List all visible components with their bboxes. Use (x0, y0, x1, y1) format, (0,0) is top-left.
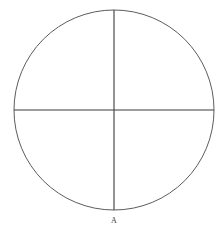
point-label-a: A (111, 217, 117, 225)
circle-diagram-svg (0, 0, 222, 236)
figure-canvas: A (0, 0, 222, 236)
